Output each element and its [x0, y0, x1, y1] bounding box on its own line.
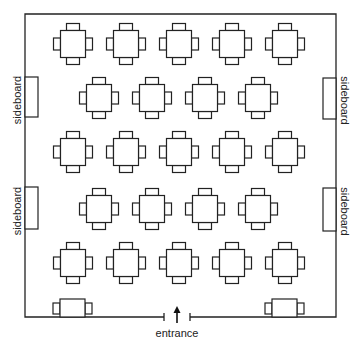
chair: [67, 24, 80, 31]
table: [246, 85, 271, 112]
table-with-4-chairs: [107, 243, 146, 284]
chair: [226, 132, 239, 139]
wall-table-with-2-chairs: [265, 299, 304, 317]
chair: [213, 38, 220, 50]
chair: [120, 243, 133, 250]
chair: [226, 166, 239, 173]
chair: [199, 78, 212, 85]
chair: [279, 58, 292, 65]
table-with-4-chairs: [133, 189, 172, 230]
chair: [218, 203, 225, 215]
chair: [245, 257, 252, 269]
chair: [226, 277, 239, 284]
chair: [86, 38, 93, 50]
chair: [139, 257, 146, 269]
chair: [93, 189, 106, 196]
chair: [266, 38, 273, 50]
chair: [252, 78, 265, 85]
table-with-4-chairs: [213, 243, 252, 284]
chair: [192, 146, 199, 158]
table-with-4-chairs: [133, 78, 172, 119]
table-with-4-chairs: [266, 243, 305, 284]
table: [167, 31, 192, 58]
chair: [199, 189, 212, 196]
table-with-4-chairs: [239, 78, 278, 119]
table-with-4-chairs: [213, 132, 252, 173]
floor-plan: entrance sideboardsideboardsideboardside…: [0, 0, 357, 348]
chair: [120, 166, 133, 173]
chair: [266, 257, 273, 269]
chair: [279, 243, 292, 250]
chair: [252, 112, 265, 119]
chair: [297, 303, 304, 314]
chair: [213, 257, 220, 269]
entrance-arrow-icon: [174, 306, 181, 313]
chair: [173, 277, 186, 284]
chair: [173, 132, 186, 139]
table: [61, 250, 86, 277]
chair: [67, 277, 80, 284]
sideboard: [323, 188, 336, 231]
table-with-4-chairs: [160, 132, 199, 173]
chair: [93, 78, 106, 85]
table: [61, 31, 86, 58]
table-with-4-chairs: [239, 189, 278, 230]
table-with-4-chairs: [186, 78, 225, 119]
chair: [86, 146, 93, 158]
table: [60, 299, 85, 317]
chair: [67, 132, 80, 139]
table: [220, 31, 245, 58]
sideboard-label: sideboard: [11, 187, 23, 235]
chair: [93, 223, 106, 230]
chair: [67, 243, 80, 250]
chair: [139, 146, 146, 158]
table: [246, 196, 271, 223]
table-with-4-chairs: [160, 243, 199, 284]
chair: [218, 92, 225, 104]
sideboard-label: sideboard: [339, 76, 351, 124]
chair: [173, 58, 186, 65]
table-with-4-chairs: [266, 132, 305, 173]
sideboard: [25, 187, 38, 229]
chair: [120, 277, 133, 284]
table-with-4-chairs: [54, 243, 93, 284]
table-with-4-chairs: [54, 132, 93, 173]
chair: [146, 112, 159, 119]
table: [114, 31, 139, 58]
table: [167, 139, 192, 166]
chair: [54, 38, 61, 50]
sideboard-label: sideboard: [339, 187, 351, 235]
chair: [53, 303, 60, 314]
chair: [160, 146, 167, 158]
chair: [80, 203, 87, 215]
table: [273, 250, 298, 277]
chair: [186, 203, 193, 215]
chair: [173, 24, 186, 31]
chair: [160, 38, 167, 50]
chair: [107, 146, 114, 158]
entrance-label: entrance: [156, 327, 199, 339]
chair: [67, 166, 80, 173]
table: [273, 31, 298, 58]
chair: [279, 24, 292, 31]
entrance-marker: entrance: [156, 306, 199, 339]
chair: [298, 38, 305, 50]
chair: [67, 58, 80, 65]
chair: [239, 92, 246, 104]
table-with-4-chairs: [213, 24, 252, 65]
chair: [226, 24, 239, 31]
table-with-4-chairs: [107, 24, 146, 65]
table: [272, 299, 297, 317]
chair: [279, 166, 292, 173]
chair: [252, 189, 265, 196]
chair: [107, 257, 114, 269]
chair: [298, 146, 305, 158]
chair: [173, 243, 186, 250]
table-with-4-chairs: [54, 24, 93, 65]
wall-tables: [53, 299, 304, 317]
chair: [279, 132, 292, 139]
sideboard-label: sideboard: [11, 76, 23, 124]
table: [61, 139, 86, 166]
table: [87, 196, 112, 223]
table-with-4-chairs: [107, 132, 146, 173]
